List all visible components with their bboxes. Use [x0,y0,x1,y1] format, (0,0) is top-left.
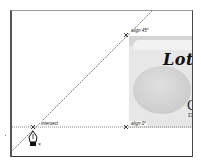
align-0-label: align 0° [130,121,147,126]
align-45-label: align 45° [130,28,150,33]
smart-guides-layer: × [0,0,201,164]
anchor-45-marker [124,33,128,37]
cursor-modifier-x: × [38,141,41,147]
intersect-label: intersect [40,121,59,126]
pen-tool-icon [29,131,37,146]
